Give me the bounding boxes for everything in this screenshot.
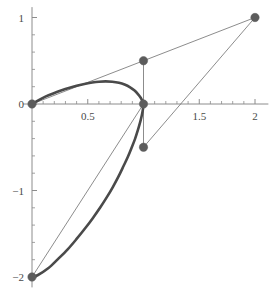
y-tick-label: −1 bbox=[12, 185, 24, 197]
marker-upper-control bbox=[139, 57, 147, 65]
marker-bottom-endpoint bbox=[28, 273, 36, 281]
bottom-to-knot bbox=[32, 104, 144, 277]
marker-origin bbox=[28, 100, 36, 108]
y-axis-ticks bbox=[32, 18, 37, 278]
plot-canvas: 0.51.52 10−1−2 bbox=[0, 0, 270, 290]
x-axis-tick-labels: 0.51.52 bbox=[81, 110, 258, 122]
x-tick-label: 0.5 bbox=[81, 110, 95, 122]
y-tick-label: −2 bbox=[12, 271, 24, 283]
y-tick-label: 0 bbox=[19, 98, 25, 110]
x-axis-ticks bbox=[43, 99, 255, 104]
marker-lower-control bbox=[139, 143, 147, 151]
y-tick-label: 1 bbox=[19, 12, 25, 24]
marker-knot bbox=[139, 100, 147, 108]
x-tick-label: 1.5 bbox=[192, 110, 206, 122]
marker-right-endpoint bbox=[251, 13, 259, 21]
y-axis-tick-labels: 10−1−2 bbox=[12, 12, 24, 284]
x-tick-label: 2 bbox=[252, 110, 258, 122]
lower-control-to-endpoint bbox=[144, 18, 256, 148]
upper-control-to-endpoint bbox=[144, 18, 256, 61]
chart-figure: 0.51.52 10−1−2 bbox=[0, 0, 270, 290]
